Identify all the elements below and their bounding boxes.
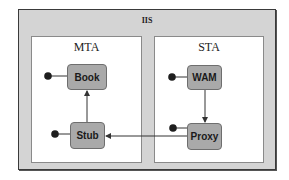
sta-label: STA bbox=[155, 40, 263, 55]
node-wam: WAM bbox=[187, 65, 222, 90]
iis-label: IIS bbox=[19, 16, 275, 25]
node-stub: Stub bbox=[70, 122, 105, 149]
node-wam-label: WAM bbox=[192, 72, 216, 83]
node-book: Book bbox=[67, 64, 107, 90]
node-proxy: Proxy bbox=[187, 123, 222, 150]
mta-label: MTA bbox=[32, 40, 141, 55]
node-book-label: Book bbox=[75, 72, 100, 83]
node-stub-label: Stub bbox=[76, 130, 98, 141]
iis-container: IIS MTA STA bbox=[18, 9, 276, 170]
node-proxy-label: Proxy bbox=[191, 131, 219, 142]
